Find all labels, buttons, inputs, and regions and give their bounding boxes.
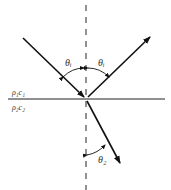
diagram-canvas: θᵢ θᵢ θ₂ ρ₁c₁ ρ₂c₂ (0, 0, 171, 190)
incident-ray (23, 38, 84, 97)
reflected-angle-label: θᵢ (98, 57, 105, 68)
incident-angle-arc (63, 68, 84, 77)
transmitted-angle-label: θ₂ (98, 154, 107, 165)
medium1-label: ρ₁c₁ (11, 88, 25, 97)
medium2-label: ρ₂c₂ (11, 103, 25, 112)
incident-angle-label: θᵢ (65, 57, 72, 68)
reflected-angle-arc (88, 68, 109, 77)
